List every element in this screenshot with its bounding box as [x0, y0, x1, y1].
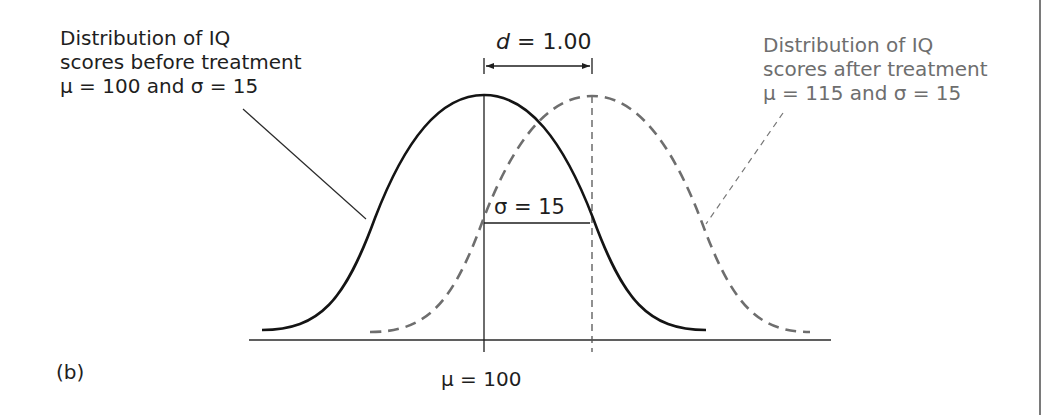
after-label: Distribution of IQ scores after treatmen… — [763, 33, 988, 105]
sigma-label: σ = 15 — [494, 195, 565, 219]
leader-before — [243, 109, 366, 219]
curve-after — [370, 96, 810, 332]
mean-axis-label: μ = 100 — [441, 367, 521, 391]
before-label: Distribution of IQ scores before treatme… — [60, 26, 302, 98]
effect-size-label: d = 1.00 — [496, 30, 591, 54]
panel-label: (b) — [56, 360, 84, 384]
leader-after — [706, 113, 783, 224]
